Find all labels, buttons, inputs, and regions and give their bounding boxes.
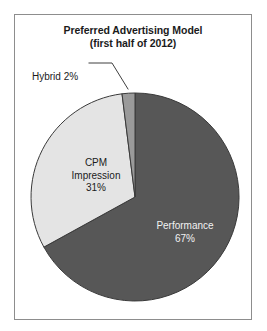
pie-label-cpm-line1: CPM [57, 157, 135, 170]
pie-label-performance-line1: Performance [137, 220, 233, 233]
pie-label-cpm-impression: CPM Impression 31% [57, 157, 135, 195]
pie-label-performance: Performance 67% [137, 220, 233, 245]
pie-label-performance-line2: 67% [137, 233, 233, 246]
chart-frame: Preferred Advertising Model (first half … [14, 14, 252, 320]
pie-label-hybrid: Hybrid 2% [32, 71, 78, 84]
pie-label-cpm-line2: Impression [57, 170, 135, 183]
pie-label-hybrid-line1: Hybrid 2% [32, 71, 78, 84]
pie-label-cpm-line3: 31% [57, 182, 135, 195]
hybrid-leader-line [89, 63, 128, 89]
